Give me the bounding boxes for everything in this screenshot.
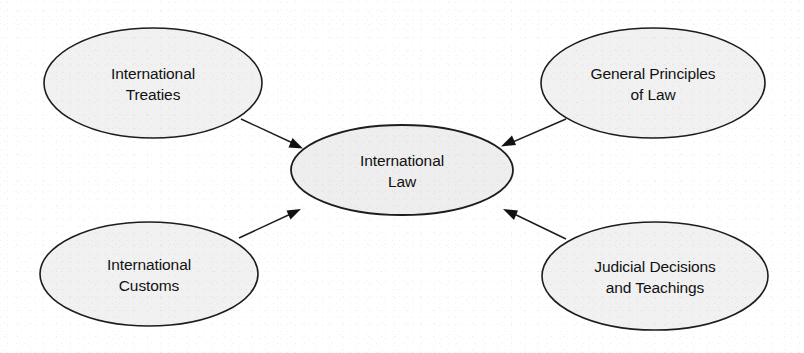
edge-principles-to-law-line bbox=[508, 119, 566, 144]
diagram-svg bbox=[0, 0, 804, 353]
edge-customs-to-law-arrowhead bbox=[287, 209, 302, 220]
edge-principles-to-law-arrowhead bbox=[501, 136, 516, 147]
edge-judicial-to-law-arrowhead bbox=[503, 209, 518, 220]
node-international-customs[interactable] bbox=[40, 222, 258, 326]
node-general-principles-of-law[interactable] bbox=[541, 28, 765, 138]
edge-treaties-to-law-arrowhead bbox=[289, 138, 304, 149]
node-international-treaties[interactable] bbox=[44, 28, 262, 138]
edge-treaties-to-law-line bbox=[241, 119, 297, 145]
node-layer bbox=[40, 28, 768, 330]
node-judicial-decisions-and-teachings[interactable] bbox=[542, 222, 768, 330]
edge-judicial-to-law-line bbox=[510, 212, 566, 239]
diagram-canvas: International Treaties General Principle… bbox=[0, 0, 804, 353]
node-international-law[interactable] bbox=[291, 125, 513, 215]
edge-customs-to-law-line bbox=[239, 212, 295, 238]
